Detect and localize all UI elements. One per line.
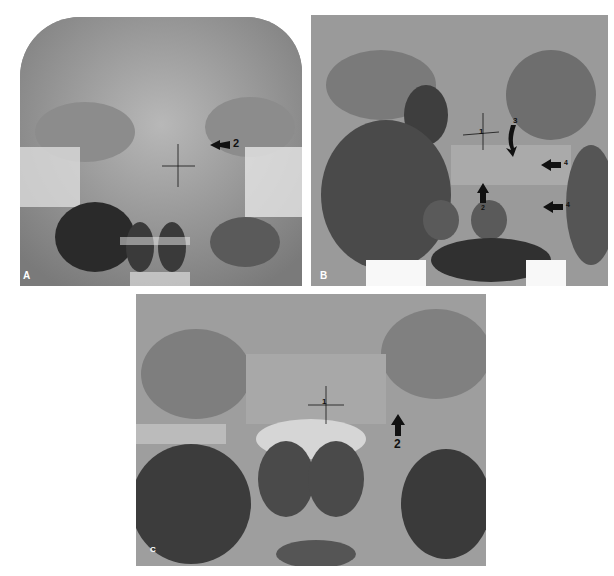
- xray-image-c: [136, 294, 486, 566]
- annotation-2-label: 2: [233, 137, 239, 149]
- annotation-4-label-upper: 4: [564, 159, 568, 166]
- annotation-2-label: 2: [394, 437, 401, 451]
- xray-image-b: [311, 15, 608, 286]
- annotation-3-label: 3: [513, 116, 517, 125]
- radiograph-panel-a: 2 A: [20, 17, 302, 286]
- panel-label-b: B: [320, 270, 327, 281]
- xray-image-a: [20, 17, 302, 286]
- annotation-2-label: 2: [481, 204, 485, 211]
- annotation-4-label-lower: 4: [566, 201, 570, 208]
- radiograph-panel-b: 1 3 4 4 2 B: [311, 15, 608, 286]
- panel-label-c: C: [150, 545, 156, 554]
- annotation-1-label: 1: [479, 127, 483, 136]
- annotation-1-label: 1: [322, 397, 326, 406]
- panel-label-a: A: [23, 270, 30, 281]
- radiograph-panel-c: 1 2 C: [136, 294, 486, 566]
